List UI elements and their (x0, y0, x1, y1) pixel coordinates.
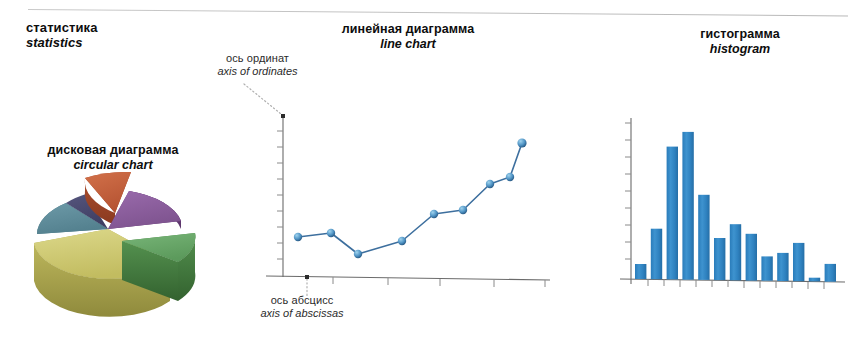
abscissa-axis-label: ось абсцисс axis of abscissas (232, 294, 372, 320)
histogram-bar (651, 229, 662, 280)
histogram-bar (730, 224, 741, 280)
pie-chart-label-ru: дисковая диаграмма (18, 143, 208, 158)
pie-slice-yellow (34, 229, 170, 317)
histogram-label-en: histogram (655, 42, 825, 57)
line-chart-label-ru: линейная диаграмма (318, 22, 498, 37)
abscissa-axis-label-ru: ось абсцисс (232, 294, 372, 307)
ordinate-leader-line (244, 84, 281, 114)
histogram-bar (777, 253, 788, 281)
pie-chart-label-en: circular chart (18, 158, 208, 173)
page-title: статистика statistics (26, 20, 98, 51)
histogram-bar (682, 132, 693, 280)
top-divider (28, 9, 848, 16)
line-data-points (294, 138, 527, 258)
pie-slice-navy (66, 194, 108, 229)
page-title-ru: статистика (26, 20, 98, 35)
histogram-bar (714, 238, 725, 280)
line-series-path (298, 143, 522, 254)
histogram-label-ru: гистограмма (655, 27, 825, 42)
pie-chart-label: дисковая диаграмма circular chart (18, 143, 208, 173)
histogram-bar (698, 195, 709, 280)
histogram-bar (746, 234, 757, 281)
y-axis-top-marker (281, 114, 285, 118)
histogram-bar (825, 264, 836, 282)
histogram-bar (793, 243, 804, 281)
line-chart-label: линейная диаграмма line chart (318, 22, 498, 52)
x-axis (266, 276, 550, 280)
pie-slice-green (122, 233, 195, 301)
x-axis-origin-marker (305, 275, 309, 279)
histogram-x-axis (620, 279, 845, 282)
histogram-bars (635, 132, 836, 282)
ordinate-axis-label-ru: ось ординат (190, 52, 325, 65)
histogram-bar (809, 278, 820, 282)
pie-slice-teal (37, 203, 108, 234)
histogram-y-ticks (625, 123, 631, 259)
histogram-bar (635, 264, 646, 279)
histogram-bar (667, 147, 678, 280)
pie-slice-purple (108, 191, 181, 229)
ordinate-axis-label: ось ординат axis of ordinates (190, 52, 325, 78)
line-chart-label-en: line chart (318, 37, 498, 52)
histogram-label: гистограмма histogram (655, 27, 825, 57)
pie-slice-orange (85, 172, 131, 225)
ordinate-axis-label-en: axis of ordinates (190, 65, 325, 78)
abscissa-axis-label-en: axis of abscissas (232, 307, 372, 320)
page-title-en: statistics (26, 35, 98, 50)
histogram-x-ticks (648, 279, 824, 289)
histogram-bar (761, 256, 772, 280)
x-axis-ticks (333, 277, 545, 287)
y-axis-ticks (277, 131, 283, 259)
